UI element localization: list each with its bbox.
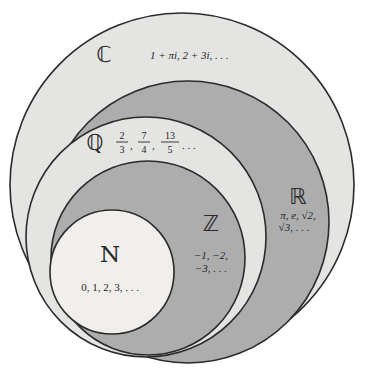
fraction-numerator: 7 (142, 130, 147, 141)
venn-diagram: ℂ 1 + πi, 2 + 3i, . . . ℚ 2 3 , 7 4 , 13… (0, 0, 370, 376)
set-examples-real-line2: √3, . . . (279, 221, 310, 233)
fraction-denominator: 5 (168, 144, 173, 155)
rational-ellipsis: . . . (182, 139, 196, 151)
fraction-denominator: 4 (142, 144, 147, 155)
fraction-denominator: 3 (120, 144, 125, 155)
set-examples-naturals: 0, 1, 2, 3, . . . (81, 281, 139, 293)
fraction-numerator: 13 (165, 130, 175, 141)
fraction-separator-1: , (130, 139, 133, 151)
set-symbol-complex: ℂ (96, 42, 111, 67)
set-examples-real-line1: π, e, √2, (280, 209, 316, 221)
fraction-numerator: 2 (120, 130, 125, 141)
set-symbol-rational: ℚ (86, 130, 103, 155)
set-examples-complex: 1 + πi, 2 + 3i, . . . (150, 49, 229, 61)
set-examples-integers-line1: −1, −2, (194, 249, 228, 261)
set-symbol-naturals: N (100, 241, 120, 267)
fraction-separator-2: , (152, 139, 155, 151)
set-symbol-real: ℝ (289, 184, 306, 209)
set-examples-integers-line2: −3, . . . (195, 262, 227, 274)
venn-diagram-svg: ℂ 1 + πi, 2 + 3i, . . . ℚ 2 3 , 7 4 , 13… (0, 0, 370, 376)
set-symbol-integers: ℤ (203, 211, 219, 236)
set-circle-naturals (50, 210, 174, 334)
